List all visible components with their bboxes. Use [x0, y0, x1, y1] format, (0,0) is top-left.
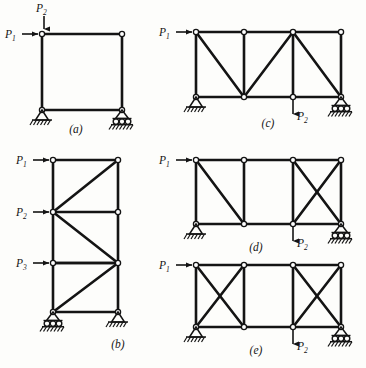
panel-c: P1 P2 (c) — [158, 26, 352, 130]
load-p2-label: P2 — [35, 2, 47, 17]
panel-a-nodes — [39, 31, 124, 112]
node — [241, 157, 246, 162]
load-p2-label: P2 — [296, 110, 308, 125]
panel-d-members — [196, 160, 341, 224]
node — [241, 262, 246, 267]
node — [241, 29, 246, 34]
node — [119, 31, 124, 36]
brace-story-4 — [53, 263, 118, 312]
node — [115, 157, 120, 162]
panel-e: P1 P2 (e) — [158, 259, 352, 357]
node — [338, 262, 343, 267]
brace-bay-3 — [293, 32, 341, 97]
node — [115, 209, 120, 214]
brace-bay-2 — [244, 32, 293, 97]
support-pin-right — [106, 312, 128, 327]
panel-e-nodes — [193, 262, 343, 329]
node — [290, 157, 295, 162]
panel-a: P1 P2 (a) — [4, 2, 133, 136]
load-p1-label: P1 — [158, 26, 170, 41]
panel-e-members — [196, 265, 341, 327]
node — [241, 324, 246, 329]
caption-e: (e) — [250, 344, 263, 357]
node — [50, 157, 55, 162]
support-pin-left — [184, 224, 206, 239]
panel-d-nodes — [193, 157, 343, 226]
load-p1-label: P1 — [158, 154, 170, 169]
support-pin-left — [184, 97, 206, 112]
node — [50, 209, 55, 214]
node — [290, 94, 295, 99]
node — [193, 157, 198, 162]
load-p1-label: P1 — [4, 28, 16, 43]
load-p1-label: P1 — [158, 259, 170, 274]
caption-c: (c) — [262, 117, 275, 130]
panel-b: P1 P2 P3 (b) — [15, 154, 128, 351]
support-pin-left — [30, 110, 52, 125]
node — [241, 94, 246, 99]
panel-b-members — [53, 160, 118, 312]
load-p3-label: P3 — [15, 257, 27, 272]
load-p2-label: P2 — [15, 206, 27, 221]
node — [338, 29, 343, 34]
load-p1-label: P1 — [15, 154, 27, 169]
node — [241, 221, 246, 226]
caption-b: (b) — [111, 338, 125, 351]
load-p2-label: P2 — [296, 237, 308, 252]
caption-a: (a) — [69, 123, 83, 136]
panel-d: P1 P2 (d) — [158, 154, 352, 254]
panel-a-members — [42, 34, 122, 110]
node — [290, 29, 295, 34]
caption-d: (d) — [249, 241, 263, 254]
node — [290, 324, 295, 329]
brace-bay-1 — [196, 32, 244, 97]
node — [39, 31, 44, 36]
support-pin-left — [184, 327, 206, 342]
node — [290, 221, 295, 226]
node — [193, 262, 198, 267]
node — [115, 260, 120, 265]
load-p2-label: P2 — [296, 340, 308, 355]
structural-figure: P1 P2 (a) — [0, 0, 366, 368]
panel-c-members — [196, 32, 341, 97]
brace-bay-1 — [196, 160, 244, 224]
brace-story-1 — [53, 160, 118, 212]
node — [290, 262, 295, 267]
brace-story-2 — [53, 212, 118, 263]
node — [338, 157, 343, 162]
node — [193, 29, 198, 34]
node — [50, 260, 55, 265]
